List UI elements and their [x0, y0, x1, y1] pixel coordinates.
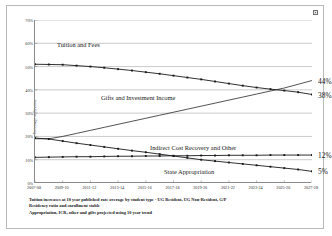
data-point-marker: [200, 159, 202, 161]
data-point-marker: [48, 64, 50, 66]
chart-footnotes: Tuition increases at 10 year published r…: [29, 197, 319, 216]
data-point-marker: [200, 78, 202, 80]
data-point-marker: [186, 77, 188, 79]
data-point-marker: [89, 144, 91, 146]
series-end-value-label: 12%: [318, 151, 332, 160]
data-point-marker: [117, 155, 119, 157]
x-axis-tick-label: 2011-12: [82, 185, 96, 190]
data-point-marker: [242, 85, 244, 87]
data-point-marker: [89, 156, 91, 158]
x-axis-tick-label: 2009-10: [55, 185, 69, 190]
data-point-marker: [62, 140, 64, 142]
data-point-marker: [103, 156, 105, 158]
series-label-indirect: Indirect Cost Recovery and Other: [150, 144, 236, 151]
data-point-marker: [214, 81, 216, 83]
x-axis-tick-label: 2017-18: [166, 185, 180, 190]
data-point-marker: [131, 150, 133, 152]
series-end-value-label: 44%: [318, 77, 332, 86]
data-point-marker: [283, 167, 285, 169]
data-point-marker: [103, 67, 105, 69]
x-axis-tick-label: 2021-22: [221, 185, 235, 190]
x-axis-tick-label: 2027-28: [304, 185, 318, 190]
x-axis-tick-label: 2019-20: [193, 185, 207, 190]
data-point-marker: [270, 154, 272, 156]
data-point-marker: [214, 160, 216, 162]
y-axis-tick-label: 70%: [25, 18, 33, 23]
data-point-marker: [256, 154, 258, 156]
data-point-marker: [48, 156, 50, 158]
x-axis-tick-label: 2007-08: [27, 185, 41, 190]
data-point-marker: [242, 163, 244, 165]
data-point-marker: [270, 166, 272, 168]
data-point-marker: [89, 66, 91, 68]
data-point-marker: [159, 153, 161, 155]
data-point-marker: [311, 170, 312, 172]
data-point-marker: [145, 155, 147, 157]
data-point-marker: [62, 64, 64, 66]
data-point-marker: [311, 154, 312, 156]
data-point-marker: [131, 70, 133, 72]
data-point-marker: [297, 154, 299, 156]
data-point-marker: [242, 154, 244, 156]
data-point-marker: [256, 87, 258, 89]
y-axis-tick-label: 60%: [25, 41, 33, 46]
data-point-marker: [145, 71, 147, 73]
series-label-state: State Appropriation: [164, 168, 214, 175]
data-point-marker: [48, 138, 50, 140]
data-point-marker: [35, 156, 36, 158]
chart-frame: Percentage of Revenue Tuition and Fees G…: [6, 5, 324, 229]
plot-area: Tuition and Fees Gifts and Investment In…: [34, 20, 311, 183]
data-point-marker: [311, 94, 312, 96]
data-point-marker: [62, 156, 64, 158]
x-axis-tick-label: 2025-26: [276, 185, 290, 190]
data-point-marker: [35, 137, 36, 139]
data-point-marker: [76, 156, 78, 158]
data-point-marker: [228, 154, 230, 156]
data-point-marker: [186, 155, 188, 157]
x-axis-tick-label: 2015-16: [138, 185, 152, 190]
data-point-marker: [117, 148, 119, 150]
series-end-value-label: 38%: [318, 91, 332, 100]
data-point-marker: [145, 151, 147, 153]
data-point-marker: [214, 155, 216, 157]
data-point-marker: [283, 154, 285, 156]
y-axis-tick-label: 30%: [25, 111, 33, 116]
data-point-marker: [76, 65, 78, 67]
series-label-tuition: Tuition and Fees: [57, 41, 100, 48]
data-point-marker: [256, 164, 258, 166]
data-point-marker: [228, 162, 230, 164]
y-axis-tick-label: 50%: [25, 64, 33, 69]
y-axis-tick-label: 20%: [25, 134, 33, 139]
data-point-marker: [270, 88, 272, 90]
data-point-marker: [186, 157, 188, 159]
series-label-gifts: Gifts and Investment Income: [101, 94, 175, 101]
data-point-marker: [159, 73, 161, 75]
data-point-marker: [173, 75, 175, 77]
data-point-marker: [159, 155, 161, 157]
footnote-line: Appropriation, ICR, other and gifts proj…: [29, 210, 319, 216]
data-point-marker: [173, 155, 175, 157]
x-axis-tick-labels: 2007-082009-102011-122013-142015-162017-…: [34, 185, 311, 197]
x-axis-tick-label: 2013-14: [110, 185, 124, 190]
data-point-marker: [131, 155, 133, 157]
data-point-marker: [200, 155, 202, 157]
chart-screenshot: Percentage of Revenue Tuition and Fees G…: [0, 0, 332, 236]
y-axis-tick-label: 40%: [25, 87, 33, 92]
y-axis-tick-label: 10%: [25, 157, 33, 162]
data-point-marker: [297, 91, 299, 93]
x-axis-tick-label: 2023-24: [249, 185, 263, 190]
data-point-marker: [228, 83, 230, 85]
data-point-marker: [297, 169, 299, 171]
data-point-marker: [35, 63, 36, 65]
data-point-marker: [117, 68, 119, 70]
chart-corner-marker-icon[interactable]: [313, 10, 318, 15]
series-end-value-label: 5%: [318, 167, 328, 176]
data-point-marker: [103, 146, 105, 148]
data-point-marker: [283, 90, 285, 92]
data-point-marker: [76, 142, 78, 144]
